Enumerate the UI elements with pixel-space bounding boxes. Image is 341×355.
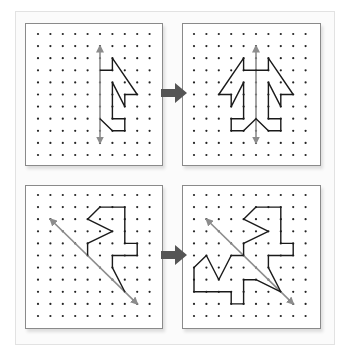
grid-dot [74, 57, 76, 59]
grid-dot [37, 81, 39, 83]
grid-dot [193, 106, 195, 108]
grid-dot [87, 45, 89, 47]
grid-dot [305, 206, 307, 208]
grid-dot [62, 130, 64, 132]
grid-dot [230, 57, 232, 59]
grid-dot [193, 230, 195, 232]
grid-dot [87, 315, 89, 317]
grid-dot [230, 315, 232, 317]
grid-dot [205, 93, 207, 95]
grid-dot [305, 254, 307, 256]
grid-dot [292, 45, 294, 47]
grid-dot [193, 81, 195, 83]
grid-dot [218, 194, 220, 196]
grid-dot [243, 33, 245, 35]
grid-dot [37, 242, 39, 244]
grid-dot [267, 45, 269, 47]
grid-dot [267, 33, 269, 35]
grid-dot [193, 69, 195, 71]
grid-dot [74, 279, 76, 281]
grid-dot [124, 69, 126, 71]
grid-dot [149, 106, 151, 108]
grid-dot [136, 279, 138, 281]
grid-dot [205, 142, 207, 144]
grid-dot [292, 315, 294, 317]
grid-dot [218, 142, 220, 144]
grid-dot [193, 254, 195, 256]
grid-dot [205, 130, 207, 132]
grid-dot [255, 291, 257, 293]
grid-dot [99, 194, 101, 196]
grid-dot [49, 69, 51, 71]
grid-dot [136, 230, 138, 232]
grid-dot [87, 33, 89, 35]
grid-dot [49, 206, 51, 208]
grid-dot [74, 218, 76, 220]
grid-dot [99, 218, 101, 220]
grid-dot [37, 154, 39, 156]
grid-dot [149, 230, 151, 232]
grid-dot [267, 194, 269, 196]
grid-dot [230, 81, 232, 83]
grid-dot [136, 154, 138, 156]
grid-dot [37, 267, 39, 269]
grid-dot [205, 81, 207, 83]
grid-dot [136, 315, 138, 317]
grid-dot [280, 194, 282, 196]
grid-dot [74, 69, 76, 71]
grid-dot [243, 230, 245, 232]
grid-dot [230, 206, 232, 208]
right-arrow-icon [161, 83, 187, 103]
grid-dot [87, 57, 89, 59]
grid-dot [292, 57, 294, 59]
grid-dot [305, 315, 307, 317]
grid-dot [99, 254, 101, 256]
grid-dot [62, 242, 64, 244]
grid-dot [305, 242, 307, 244]
grid-dot [37, 142, 39, 144]
grid-dot [62, 206, 64, 208]
grid-dot [280, 57, 282, 59]
grid-dot [149, 130, 151, 132]
grid-dot [243, 45, 245, 47]
grid-dot [280, 45, 282, 47]
grid-dot [243, 194, 245, 196]
grid-dot [205, 267, 207, 269]
grid-dot [205, 230, 207, 232]
grid-dot [218, 254, 220, 256]
grid-dot [305, 106, 307, 108]
grid-dot [205, 69, 207, 71]
grid-dot [255, 303, 257, 305]
grid-dot [49, 154, 51, 156]
grid-dot [292, 279, 294, 281]
grid-dot [149, 45, 151, 47]
grid-dot [292, 218, 294, 220]
grid-dot [136, 45, 138, 47]
grid-dot [218, 154, 220, 156]
grid-dot [62, 154, 64, 156]
grid-dot [305, 194, 307, 196]
grid-dot [124, 194, 126, 196]
grid-dot [62, 267, 64, 269]
grid-dot [218, 315, 220, 317]
grid-dot [111, 242, 113, 244]
grid-dot [37, 130, 39, 132]
grid-dot [205, 118, 207, 120]
grid-dot [193, 218, 195, 220]
right-arrow-icon [161, 245, 187, 265]
grid-dot [74, 267, 76, 269]
grid-dot [255, 33, 257, 35]
grid-dot [305, 142, 307, 144]
grid-dot [280, 33, 282, 35]
grid-dot [149, 315, 151, 317]
grid-dot [49, 45, 51, 47]
grid-dot [255, 194, 257, 196]
diagram-canvas [0, 0, 341, 355]
grid-dot [49, 315, 51, 317]
grid-dot [218, 106, 220, 108]
grid-dot [74, 106, 76, 108]
grid-dot [37, 194, 39, 196]
grid-dot [205, 106, 207, 108]
grid-dot [74, 230, 76, 232]
grid-dot [111, 303, 113, 305]
